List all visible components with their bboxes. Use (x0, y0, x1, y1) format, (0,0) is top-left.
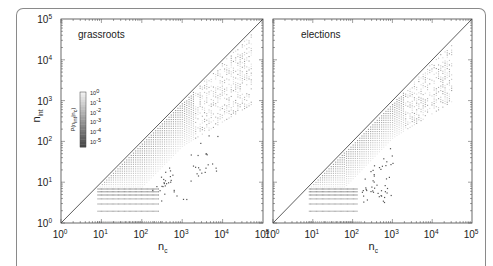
tick-label: 100 (53, 228, 68, 240)
tick-label: 100 (37, 217, 52, 229)
x-tick-labels: 100101102103104105 (53, 228, 270, 240)
x-axis-label: nc (369, 240, 379, 254)
tick-label: 100 (265, 228, 280, 240)
density-heatmap (309, 45, 452, 222)
colorbar-tick-label: 10-2 (90, 107, 101, 116)
density-heatmap (97, 34, 251, 222)
figure-canvas: grassroots 100101102103104105 1001011021… (0, 0, 493, 266)
tick-label: 101 (304, 228, 319, 240)
colorbar-title: P(nint|nc) (70, 108, 78, 132)
tick-label: 103 (37, 95, 52, 107)
tick-label: 102 (37, 135, 52, 147)
panel-elections: elections 100101102103104105 nc (265, 19, 479, 254)
tick-label: 105 (464, 228, 479, 240)
tick-label: 103 (174, 228, 189, 240)
panel-title: elections (301, 29, 340, 40)
colorbar-tick-label: 100 (90, 88, 99, 97)
tick-label: 101 (37, 176, 52, 188)
tick-label: 104 (214, 228, 229, 240)
colorbar-tick-label: 10-5 (90, 137, 101, 146)
tick-label: 104 (37, 54, 52, 66)
tick-label: 104 (424, 228, 439, 240)
tick-label: 102 (344, 228, 359, 240)
tick-label: 101 (93, 228, 108, 240)
colorbar-legend: 10010-110-210-310-410-5P(nint|nc) (70, 88, 101, 148)
panel-grassroots: grassroots 100101102103104105 1001011021… (30, 13, 270, 254)
tick-label: 103 (384, 228, 399, 240)
colorbar-tick-label: 10-3 (90, 117, 101, 126)
y-axis-label: nint (30, 109, 44, 122)
colorbar-tick-label: 10-4 (90, 127, 101, 136)
tick-label: 102 (133, 228, 148, 240)
x-tick-labels: 100101102103104105 (265, 228, 479, 240)
colorbar-tick-label: 10-1 (90, 97, 101, 106)
x-axis-label: nc (158, 240, 168, 254)
diagonal-reference-line (273, 19, 472, 223)
tick-label: 105 (37, 13, 52, 25)
panel-title: grassroots (78, 29, 125, 40)
